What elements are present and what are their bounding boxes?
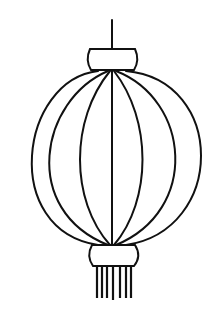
lantern-rib-right-3 — [114, 71, 143, 245]
tassels — [97, 266, 131, 300]
lantern-rib-left-2 — [49, 71, 108, 245]
lantern-svg — [0, 0, 224, 313]
lantern-rib-left-3 — [80, 71, 110, 245]
lantern-outer-rib-left — [32, 71, 98, 245]
top-cap — [88, 49, 138, 70]
lantern-outer-rib-right — [126, 71, 201, 245]
bottom-cap — [89, 245, 138, 266]
lantern-illustration: Chinese lantern line drawing — [0, 0, 224, 313]
lantern-rib-right-2 — [116, 71, 175, 245]
